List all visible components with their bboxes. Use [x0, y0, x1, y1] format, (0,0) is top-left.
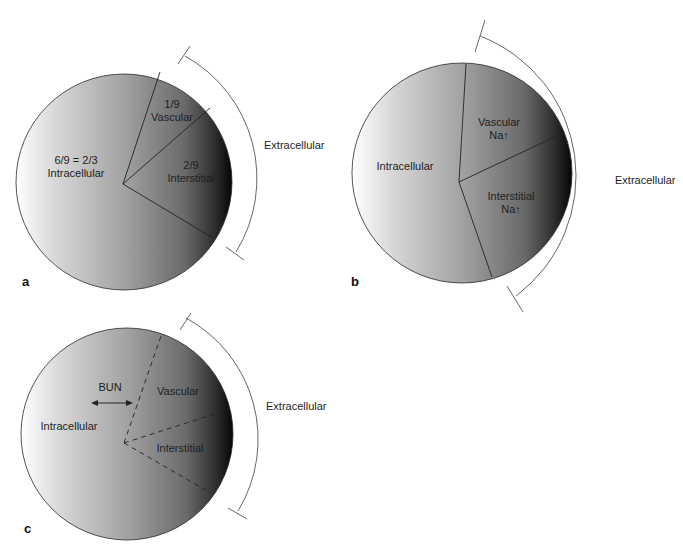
body-water-pie	[352, 63, 572, 283]
bun-label: BUN	[98, 381, 121, 393]
bracket-tick-bottom	[226, 247, 244, 260]
extracellular-label: Extracellular	[264, 139, 325, 151]
extracellular-label: Extracellular	[615, 174, 676, 186]
intracellular-fraction-label: 6/9 = 2/3	[54, 154, 97, 166]
interstitial-label: Interstitial	[167, 172, 214, 184]
vascular-sodium-increase-label: Na↑	[489, 129, 509, 141]
body-fluid-compartments-figure: 6/9 = 2/3 Intracellular 1/9 Vascular 2/9…	[0, 0, 683, 556]
vascular-label: Vascular	[478, 116, 520, 128]
vascular-fraction-label: 1/9	[164, 98, 179, 110]
bracket-tick-top	[180, 313, 191, 330]
vascular-label: Vascular	[157, 385, 199, 397]
panel-c: BUN Intracellular Vascular Interstitial …	[21, 313, 327, 540]
bracket-tick-bottom	[228, 508, 247, 519]
panel-letter-a: a	[22, 274, 30, 289]
intracellular-label: Intracellular	[48, 167, 105, 179]
interstitial-sodium-increase-label: Na↑	[501, 203, 521, 215]
extracellular-label: Extracellular	[266, 400, 327, 412]
interstitial-label: Interstitial	[487, 190, 534, 202]
vascular-label: Vascular	[151, 111, 193, 123]
interstitial-fraction-label: 2/9	[183, 159, 198, 171]
panel-letter-c: c	[24, 521, 31, 536]
panel-a: 6/9 = 2/3 Intracellular 1/9 Vascular 2/9…	[16, 46, 325, 290]
bracket-tick-top	[475, 20, 485, 52]
bracket-tick-top	[178, 46, 190, 64]
bracket-tick-bottom	[507, 286, 523, 312]
intracellular-label: Intracellular	[41, 420, 98, 432]
intracellular-label: Intracellular	[377, 160, 434, 172]
interstitial-label: Interstitial	[156, 442, 203, 454]
panel-letter-b: b	[351, 274, 359, 289]
panel-b: Intracellular Vascular Na↑ Interstitial …	[351, 20, 676, 312]
